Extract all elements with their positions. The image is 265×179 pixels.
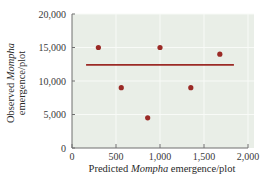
x-tick-label: 1,000	[149, 151, 172, 162]
x-axis-label: Predicted Mompha emergence/plot	[89, 163, 236, 174]
y-tick-label: 20,000	[39, 9, 67, 20]
x-tick-label: 500	[109, 151, 124, 162]
data-point	[188, 85, 193, 90]
scatter-chart: 05001,0001,5002,000 05,00010,00015,00020…	[0, 0, 265, 179]
x-tick-label: 0	[70, 151, 75, 162]
data-point	[157, 45, 162, 50]
data-point	[96, 45, 101, 50]
y-axis-label: Observed Momphaemergence/plot	[5, 43, 27, 123]
data-point	[145, 115, 150, 120]
data-point	[119, 85, 124, 90]
y-tick-label: 10,000	[39, 76, 67, 87]
x-tick-label: 2,000	[237, 151, 260, 162]
data-point	[217, 52, 222, 57]
y-tick-label: 5,000	[44, 109, 67, 120]
y-axis-ticks: 05,00010,00015,00020,000	[39, 9, 76, 154]
y-tick-label: 15,000	[39, 42, 67, 53]
x-tick-label: 1,500	[193, 151, 216, 162]
y-tick-label: 0	[61, 143, 66, 154]
